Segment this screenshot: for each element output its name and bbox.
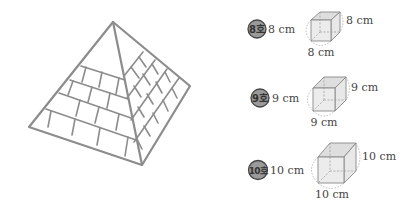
cube-right-label: 8 cm (346, 14, 374, 27)
cube-10-shape (312, 143, 361, 189)
cube-8-shape (306, 12, 343, 46)
cube-bottom-label: 9 cm (310, 116, 338, 129)
badge-label: 8호 (249, 23, 265, 35)
cube-9-shape (308, 77, 350, 116)
size-badge-9: 9호 (251, 89, 269, 107)
badge-label: 10호 (249, 166, 269, 176)
cube-bottom-label: 10 cm (315, 188, 350, 201)
badge-label: 9호 (252, 92, 268, 104)
size-badge-8: 8호 (248, 20, 266, 38)
pyramid-left-face-bricks (46, 66, 136, 156)
cube-left-label: 9 cm (272, 92, 300, 105)
cube-bottom-label: 8 cm (307, 46, 335, 59)
cube-right-label: 9 cm (351, 81, 379, 94)
pyramid-right-face-bricks (124, 52, 179, 149)
pyramid-illustration (29, 22, 190, 165)
cube-8-group: 8호 8 cm 8 cm 8 cm (248, 12, 374, 59)
cube-left-label: 10 cm (270, 164, 305, 177)
cube-10-group: 10호 10 cm 10 cm 10 cm (249, 143, 397, 201)
figure-canvas: 8호 8 cm 8 cm 8 cm 9호 9 cm (0, 0, 413, 212)
cube-left-label: 8 cm (268, 23, 296, 36)
cube-9-group: 9호 9 cm 9 cm 9 cm (251, 77, 379, 129)
size-badge-10: 10호 (249, 161, 269, 180)
cube-right-label: 10 cm (362, 150, 397, 163)
